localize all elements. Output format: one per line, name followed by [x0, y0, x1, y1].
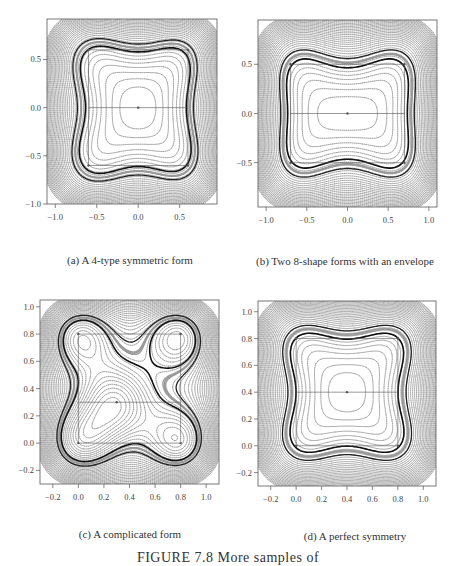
center-point-icon	[295, 445, 297, 447]
center-point-icon	[187, 49, 189, 51]
center-point-icon	[87, 49, 89, 51]
center-point-icon	[179, 333, 181, 335]
x-tick-label: 1.0	[201, 492, 212, 502]
center-point-icon	[346, 112, 348, 114]
y-tick-label: 0.0	[241, 441, 252, 451]
y-tick-label: 0.0	[241, 109, 252, 119]
center-point-icon	[403, 63, 405, 65]
y-tick-label: −0.5	[237, 158, 252, 168]
x-tick-label: −0.2	[45, 492, 60, 502]
center-point-icon	[289, 63, 291, 65]
x-tick-label: −0.5	[299, 215, 314, 225]
y-tick-label: 0.2	[23, 411, 34, 421]
x-tick-label: 0.8	[175, 492, 186, 502]
y-tick-label: 0.8	[23, 329, 34, 339]
y-tick-label: −0.5	[26, 151, 41, 161]
y-tick-label: 0.5	[241, 59, 252, 69]
x-tick-label: −1.0	[48, 212, 63, 222]
x-tick-label: −0.2	[263, 494, 278, 504]
center-point-icon	[295, 337, 297, 339]
center-point-icon	[187, 164, 189, 166]
y-tick-label: 0.5	[30, 54, 41, 64]
center-point-icon	[77, 333, 79, 335]
contour-plot-c: −0.20.00.20.40.60.81.0−0.20.00.20.40.60.…	[0, 280, 228, 505]
contour-plot-a: −1.0−0.50.00.5−1.0−0.50.00.5	[0, 0, 228, 225]
panel-b: −1.0−0.50.00.51.0−0.50.00.5	[228, 0, 456, 225]
x-tick-label: 0.5	[174, 212, 185, 222]
caption-c: (c) A complicated form	[40, 528, 220, 540]
y-tick-label: 1.0	[241, 307, 252, 317]
x-tick-label: 0.2	[316, 494, 327, 504]
y-tick-label: 0.0	[23, 438, 34, 448]
center-point-icon	[87, 164, 89, 166]
x-tick-label: 1.0	[418, 494, 429, 504]
y-tick-label: 0.4	[241, 387, 252, 397]
x-tick-label: 0.0	[291, 494, 302, 504]
center-point-icon	[346, 391, 348, 393]
y-tick-label: 1.0	[23, 302, 34, 312]
contour-plot-d: −0.20.00.20.40.60.81.0−0.20.00.20.40.60.…	[228, 280, 456, 505]
x-tick-label: 0.6	[367, 494, 378, 504]
x-tick-label: 1.0	[424, 215, 435, 225]
y-tick-label: 0.8	[241, 334, 252, 344]
contour-lines	[47, 19, 217, 204]
y-tick-label: −1.0	[26, 199, 41, 209]
x-tick-label: 0.2	[99, 492, 110, 502]
x-tick-label: 0.4	[342, 494, 353, 504]
x-tick-label: 0.0	[133, 212, 144, 222]
y-tick-label: 0.6	[241, 360, 252, 370]
center-point-icon	[397, 445, 399, 447]
contour-plot-b: −1.0−0.50.00.51.0−0.50.00.5	[228, 0, 456, 225]
center-point-icon	[77, 442, 79, 444]
y-tick-label: −0.2	[237, 468, 252, 478]
panel-c: −0.20.00.20.40.60.81.0−0.20.00.20.40.60.…	[0, 280, 228, 505]
center-point-icon	[137, 106, 139, 108]
caption-b: (b) Two 8-shape forms with an envelope	[240, 255, 450, 267]
center-point-icon	[397, 337, 399, 339]
figure-caption: FIGURE 7.8 More samples of	[0, 550, 456, 566]
caption-d: (d) A perfect symmetry	[265, 530, 445, 542]
x-tick-label: −0.5	[89, 212, 104, 222]
contour-lines	[40, 300, 219, 484]
center-point-icon	[179, 442, 181, 444]
contour-lines	[258, 301, 436, 486]
y-tick-label: 0.4	[23, 384, 34, 394]
y-tick-label: −0.2	[19, 465, 34, 475]
caption-a: (a) A 4-type symmetric form	[30, 254, 230, 266]
x-tick-label: 0.8	[393, 494, 404, 504]
x-tick-label: 0.4	[124, 492, 135, 502]
y-tick-label: 0.0	[30, 103, 41, 113]
center-point-icon	[403, 162, 405, 164]
x-tick-label: −1.0	[258, 215, 273, 225]
x-tick-label: 0.0	[73, 492, 84, 502]
x-tick-label: 0.0	[342, 215, 353, 225]
panel-d: −0.20.00.20.40.60.81.0−0.20.00.20.40.60.…	[228, 280, 456, 505]
x-tick-label: 0.6	[150, 492, 161, 502]
center-point-icon	[289, 162, 291, 164]
panel-a: −1.0−0.50.00.5−1.0−0.50.00.5	[0, 0, 228, 225]
center-point-icon	[116, 401, 118, 403]
y-tick-label: 0.6	[23, 356, 34, 366]
contour-lines	[258, 20, 437, 207]
x-tick-label: 0.5	[383, 215, 394, 225]
y-tick-label: 0.2	[241, 414, 252, 424]
